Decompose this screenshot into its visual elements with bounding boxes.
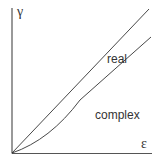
y-axis-label: γ [17, 4, 23, 20]
region-label-real: real [107, 52, 127, 66]
diagram-canvas [0, 0, 163, 166]
region-label-complex: complex [95, 108, 140, 122]
lower-boundary-curve [12, 37, 151, 153]
upper-boundary-line [12, 9, 149, 153]
x-axis-label: ε [141, 136, 147, 152]
